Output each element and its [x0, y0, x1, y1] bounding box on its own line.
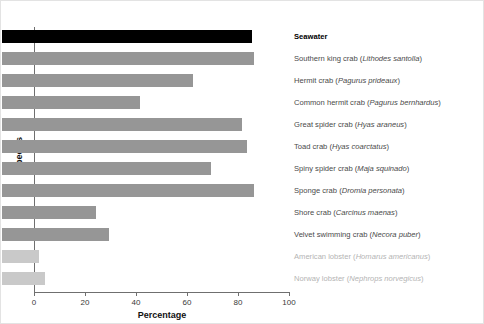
- category-label-common: Great spider crab (: [294, 120, 357, 129]
- category-label-scientific: Nephrops norvegicus: [349, 274, 421, 283]
- category-label-great-spider-crab: Great spider crab (Hyas araneus): [294, 120, 407, 130]
- x-tick-label-80: 80: [234, 298, 243, 307]
- x-tick-mark-100: [289, 292, 290, 296]
- category-label-southern-king-crab: Southern king crab (Lithodes santolla): [294, 54, 422, 64]
- category-label-common-hermit-crab: Common hermit crab (Pagurus bernhardus): [294, 98, 441, 108]
- category-label-hermit-crab: Hermit crab (Pagurus prideaux): [294, 76, 400, 86]
- category-label-toad-crab: Toad crab (Hyas coarctatus): [294, 142, 389, 152]
- category-label-american-lobster: American lobster (Homarus americanus): [294, 252, 430, 262]
- category-label-paren: ): [407, 164, 410, 173]
- category-label-text: Seawater: [294, 32, 327, 41]
- category-label-velvet-swimming-crab: Velvet swimming crab (Necora puber): [294, 230, 421, 240]
- category-label-paren: ): [397, 76, 400, 85]
- x-tick-mark-0: [34, 292, 35, 296]
- category-label-paren: ): [419, 54, 422, 63]
- category-label-scientific: Hyas araneus: [357, 120, 404, 129]
- category-label-scientific: Hyas coarctatus: [332, 142, 386, 151]
- x-axis-title: Percentage: [34, 310, 290, 320]
- bar-great-spider-crab: [2, 118, 242, 131]
- x-axis-spine: [34, 292, 290, 293]
- bar-southern-king-crab: [2, 52, 254, 65]
- category-label-paren: ): [386, 142, 389, 151]
- category-label-scientific: Lithodes santolla: [362, 54, 419, 63]
- category-label-paren: ): [395, 208, 398, 217]
- x-tick-mark-60: [187, 292, 188, 296]
- bar-spiny-spider-crab: [2, 162, 211, 175]
- x-tick-label-40: 40: [132, 298, 141, 307]
- category-label-common: Shore crab (: [294, 208, 336, 217]
- x-tick-mark-20: [85, 292, 86, 296]
- category-label-paren: ): [438, 98, 441, 107]
- category-label-common: American lobster (: [294, 252, 356, 261]
- x-tick-label-0: 0: [32, 298, 36, 307]
- bar-shore-crab: [2, 206, 96, 219]
- category-label-paren: ): [421, 274, 424, 283]
- category-label-scientific: Pagurus prideaux: [338, 76, 398, 85]
- category-label-paren: ): [418, 230, 421, 239]
- category-label-paren: ): [428, 252, 431, 261]
- bar-velvet-swimming-crab: [2, 228, 109, 241]
- category-label-norway-lobster: Norway lobster (Nephrops norvegicus): [294, 274, 424, 284]
- category-label-scientific: Dromia personata: [342, 186, 402, 195]
- category-label-sponge-crab: Sponge crab (Dromia personata): [294, 186, 405, 196]
- category-label-shore-crab: Shore crab (Carcinus maenas): [294, 208, 397, 218]
- category-label-scientific: Carcinus maenas: [336, 208, 395, 217]
- x-tick-mark-40: [136, 292, 137, 296]
- category-label-scientific: Maja squinado: [357, 164, 406, 173]
- category-label-paren: ): [402, 186, 405, 195]
- bar-common-hermit-crab: [2, 96, 140, 109]
- x-tick-label-100: 100: [282, 298, 295, 307]
- category-label-seawater: Seawater: [294, 32, 327, 42]
- category-label-common: Norway lobster (: [294, 274, 349, 283]
- category-label-common: Sponge crab (: [294, 186, 342, 195]
- category-label-column: Seawater Southern king crab (Lithodes sa…: [294, 27, 484, 292]
- category-label-common: Velvet swimming crab (: [294, 230, 372, 239]
- bar-sponge-crab: [2, 184, 254, 197]
- x-tick-label-20: 20: [81, 298, 90, 307]
- category-label-common: Toad crab (: [294, 142, 332, 151]
- bar-seawater: [2, 30, 252, 43]
- bar-american-lobster: [2, 250, 39, 263]
- category-label-spiny-spider-crab: Spiny spider crab (Maja squinado): [294, 164, 409, 174]
- category-label-scientific: Homarus americanus: [356, 252, 428, 261]
- category-label-common: Southern king crab (: [294, 54, 362, 63]
- category-label-common: Common hermit crab (: [294, 98, 370, 107]
- category-label-common: Spiny spider crab (: [294, 164, 357, 173]
- category-label-scientific: Pagurus bernhardus: [370, 98, 439, 107]
- figure-container: 0 20 40 60 80 100 Percentage Species: [0, 0, 484, 324]
- category-label-paren: ): [404, 120, 407, 129]
- x-tick-label-60: 60: [183, 298, 192, 307]
- x-tick-mark-80: [238, 292, 239, 296]
- bar-hermit-crab: [2, 74, 193, 87]
- category-label-common: Hermit crab (: [294, 76, 338, 85]
- bar-toad-crab: [2, 140, 247, 153]
- category-label-scientific: Necora puber: [372, 230, 418, 239]
- bar-norway-lobster: [2, 272, 45, 285]
